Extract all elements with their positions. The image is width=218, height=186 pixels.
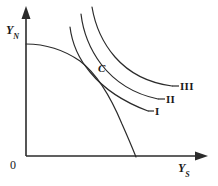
curve-indifference-ii [81,14,158,99]
curve-indifference-iii [92,7,172,86]
x-axis-arrow-icon [195,152,208,161]
x-axis-label-subscript: S [185,170,189,179]
curve-label-ii: II [166,94,175,105]
y-axis-arrow-icon [22,6,31,19]
figure-canvas [0,0,218,186]
y-axis-label: YN [6,24,19,39]
y-axis-label-subscript: N [13,32,19,41]
origin-label: 0 [10,159,16,171]
x-axis-label: YS [178,162,190,177]
tangency-point-label-c: C [98,63,105,74]
curve-label-i: I [155,106,160,117]
curve-indifference-i [70,27,148,111]
economics-ppf-indifference-curve-figure: YN YS 0 C III II I [0,0,218,186]
curve-label-iii: III [180,81,194,92]
